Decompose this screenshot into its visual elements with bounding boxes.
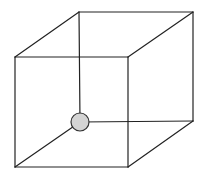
cube-svg (0, 0, 202, 176)
necker-cube-diagram (0, 0, 202, 176)
vertex-marker-circle (71, 113, 89, 131)
back-left-edge (79, 12, 80, 122)
top-left-depth-edge (15, 12, 79, 57)
bottom-left-depth-edge (15, 122, 80, 167)
top-right-depth-edge (128, 12, 193, 57)
bottom-right-depth-edge (128, 121, 193, 167)
back-bottom-edge (80, 121, 193, 122)
